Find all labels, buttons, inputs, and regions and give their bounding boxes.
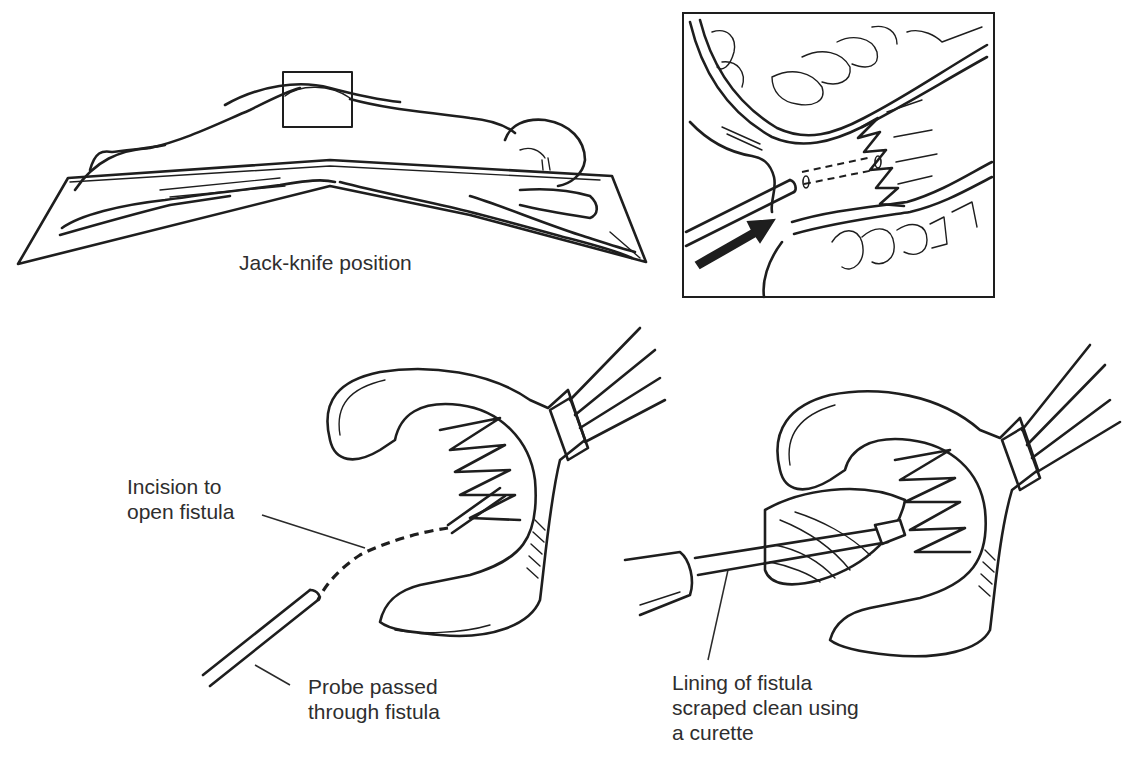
jack-knife-illustration xyxy=(0,0,670,290)
inset-panel xyxy=(682,12,995,298)
inset-illustration xyxy=(682,12,995,298)
incision-label: Incision to open fistula xyxy=(127,474,234,524)
probe-step-panel: Incision to open fistula Probe passed th… xyxy=(0,300,680,761)
jack-knife-panel: Jack-knife position xyxy=(0,0,670,290)
probe-label: Probe passed through fistula xyxy=(308,674,440,724)
lining-label: Lining of fistula scraped clean using a … xyxy=(672,670,859,745)
curette-step-panel: Lining of fistula scraped clean using a … xyxy=(620,330,1134,761)
jack-knife-caption: Jack-knife position xyxy=(239,250,412,275)
